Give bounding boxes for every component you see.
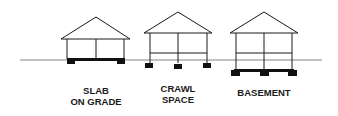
roof <box>230 12 298 33</box>
footing <box>67 58 75 64</box>
crawl-space-house <box>144 12 212 69</box>
label-slab-on-grade: SLAB ON GRADE <box>70 85 121 107</box>
label-line: BASEMENT <box>237 87 290 98</box>
footing <box>231 70 240 76</box>
pier <box>174 64 182 69</box>
footing <box>288 70 297 76</box>
label-line: SLAB <box>70 85 121 96</box>
footing <box>117 58 125 64</box>
pier <box>203 63 211 68</box>
label-crawl-space: CRAWL SPACE <box>161 83 196 105</box>
label-line: CRAWL <box>161 83 196 94</box>
roof <box>144 12 212 33</box>
slab <box>67 58 124 61</box>
label-basement: BASEMENT <box>237 87 290 98</box>
slab-on-grade-house <box>61 17 130 64</box>
label-line: SPACE <box>161 94 196 105</box>
footing <box>260 70 269 76</box>
pier <box>145 63 153 68</box>
basement-house <box>230 12 298 76</box>
label-line: ON GRADE <box>70 96 121 107</box>
roof <box>61 17 130 39</box>
